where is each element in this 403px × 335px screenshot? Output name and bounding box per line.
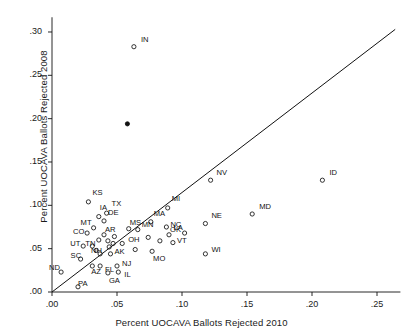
data-point-label: NE bbox=[211, 212, 222, 220]
data-point-label: MS bbox=[130, 219, 141, 227]
data-point-marker bbox=[164, 225, 168, 229]
data-point-marker bbox=[115, 264, 119, 268]
data-point-label: AR bbox=[105, 226, 116, 234]
data-point-label: MD bbox=[259, 203, 271, 211]
data-point-label: DE bbox=[108, 209, 119, 217]
data-point-label: AZ bbox=[91, 268, 101, 276]
data-point-label: IA bbox=[100, 204, 107, 212]
data-point-label: OK bbox=[170, 226, 181, 234]
data-point-marker bbox=[92, 226, 96, 230]
data-point-marker bbox=[132, 45, 136, 49]
data-point-marker bbox=[166, 206, 170, 210]
data-point-label: PA bbox=[78, 280, 88, 288]
data-point-label: UT bbox=[70, 240, 80, 248]
data-point-label: FL bbox=[105, 266, 114, 274]
data-point-marker bbox=[116, 270, 120, 274]
data-point-marker bbox=[209, 178, 213, 182]
data-point-label: SC bbox=[71, 252, 82, 260]
data-point-label: MT bbox=[81, 219, 92, 227]
data-point-label: WI bbox=[211, 246, 220, 254]
data-point-marker bbox=[127, 227, 131, 231]
data-point-marker bbox=[85, 231, 89, 235]
data-point-marker bbox=[97, 215, 101, 219]
data-point-marker bbox=[183, 231, 187, 235]
data-point-marker bbox=[146, 235, 150, 239]
data-point-marker bbox=[120, 241, 124, 245]
data-point-label: MN bbox=[142, 221, 154, 229]
scatter-plot-figure: Percent UOCAVA Ballots Rejected 2008 Per… bbox=[0, 0, 403, 335]
data-point-marker bbox=[203, 252, 207, 256]
data-point-marker bbox=[125, 122, 129, 126]
data-point-marker bbox=[171, 241, 175, 245]
data-point-label: MI bbox=[172, 195, 180, 203]
data-point-label: OH bbox=[128, 236, 139, 244]
data-point-label: ID bbox=[329, 169, 337, 177]
data-point-label: MO bbox=[153, 255, 165, 263]
data-point-marker bbox=[112, 234, 116, 238]
data-point-label: KS bbox=[92, 189, 102, 197]
data-point-marker bbox=[136, 228, 140, 232]
data-point-marker bbox=[150, 249, 154, 253]
data-point-marker bbox=[250, 212, 254, 216]
data-point-label: AK bbox=[115, 248, 125, 256]
data-point-label: NV bbox=[217, 169, 228, 177]
data-point-marker bbox=[320, 178, 324, 182]
data-point-marker bbox=[102, 219, 106, 223]
data-point-marker bbox=[108, 252, 112, 256]
data-point-label: IL bbox=[124, 271, 130, 279]
data-point-marker bbox=[203, 221, 207, 225]
data-point-label: CO bbox=[73, 228, 84, 236]
data-point-label: ND bbox=[49, 264, 60, 272]
data-point-marker bbox=[97, 238, 101, 242]
reference-line-45deg bbox=[52, 29, 395, 292]
data-point-label: TX bbox=[112, 200, 122, 208]
data-point-label: VT bbox=[177, 237, 187, 245]
data-point-label: MA bbox=[154, 210, 165, 218]
data-point-marker bbox=[158, 239, 162, 243]
plot-canvas bbox=[0, 0, 403, 335]
data-point-label: NJ bbox=[122, 260, 131, 268]
data-point-marker bbox=[106, 239, 110, 243]
data-point-label: GA bbox=[109, 277, 120, 285]
data-point-label: NH bbox=[91, 247, 102, 255]
data-point-marker bbox=[86, 200, 90, 204]
data-point-label: IN bbox=[141, 36, 149, 44]
data-point-marker bbox=[133, 247, 137, 251]
